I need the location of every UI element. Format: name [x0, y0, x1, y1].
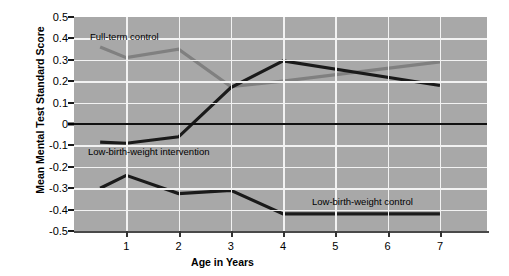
plot-area: [74, 17, 487, 231]
x-axis-line: [74, 231, 489, 233]
y-tick-mark: [68, 166, 74, 168]
x-tick-mark: [440, 231, 442, 237]
x-tick-mark: [126, 231, 128, 237]
x-axis-title-text: Age in Years: [191, 256, 254, 268]
y-tick-mark: [68, 16, 74, 18]
x-tick-label: 5: [323, 240, 347, 252]
y-tick-mark: [68, 37, 74, 39]
y-tick-label: -0.3: [34, 182, 68, 194]
x-tick-label: 3: [219, 240, 243, 252]
gridline-horizontal: [74, 210, 487, 212]
y-tick-mark: [68, 209, 74, 211]
x-tick-mark: [335, 231, 337, 237]
y-tick-label: -0.2: [34, 161, 68, 173]
x-axis-title: Age in Years: [0, 256, 509, 268]
annotation-low-birth-weight-control: Low-birth-weight control: [312, 196, 413, 207]
gridline-horizontal: [74, 81, 487, 83]
annotation-full-term-control: Full-term control: [90, 31, 159, 42]
y-tick-mark: [68, 59, 74, 61]
x-tick-label: 6: [376, 240, 400, 252]
x-tick-label: 1: [114, 240, 138, 252]
y-tick-mark: [68, 123, 74, 126]
gridline-horizontal: [74, 103, 487, 105]
y-tick-label: 0.3: [34, 54, 68, 66]
x-tick-mark: [179, 231, 181, 237]
chart-figure: Mean Mental Test Standard Score 0.50.40.…: [0, 0, 509, 276]
x-tick-mark: [283, 231, 285, 237]
gridline-horizontal: [74, 188, 487, 190]
y-tick-mark: [68, 80, 74, 82]
y-tick-mark: [68, 102, 74, 104]
y-tick-label: 0.5: [34, 11, 68, 23]
y-tick-mark: [68, 187, 74, 189]
y-tick-label: -0.4: [34, 204, 68, 216]
y-tick-mark: [68, 144, 74, 146]
y-tick-label: 0.2: [34, 75, 68, 87]
y-tick-mark: [68, 230, 74, 232]
annotation-low-birth-weight-intervention: Low-birth-weight intervention: [88, 146, 209, 157]
x-tick-label: 4: [271, 240, 295, 252]
x-tick-mark: [388, 231, 390, 237]
y-tick-label: 0: [34, 118, 68, 130]
x-tick-label: 7: [428, 240, 452, 252]
x-tick-mark: [231, 231, 233, 237]
y-tick-label: 0.4: [34, 32, 68, 44]
y-tick-label: -0.1: [34, 139, 68, 151]
gridline-horizontal: [74, 167, 487, 169]
y-axis-tick-labels: 0.50.40.30.20.10-0.1-0.2-0.3-0.4-0.5: [30, 0, 68, 276]
gridline-horizontal: [74, 60, 487, 62]
y-tick-label: 0.1: [34, 97, 68, 109]
x-tick-label: 2: [167, 240, 191, 252]
zero-reference-line: [74, 123, 487, 125]
y-tick-label: -0.5: [34, 225, 68, 237]
